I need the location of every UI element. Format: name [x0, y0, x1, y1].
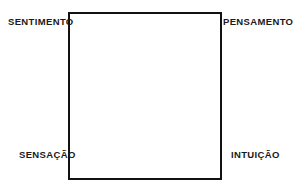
- corner-label-pensamento: PENSAMENTO: [223, 16, 293, 27]
- diagram-canvas: SENTIMENTO PENSAMENTO SENSAÇÃO INTUIÇÃO: [0, 0, 295, 190]
- corner-label-sensacao: SENSAÇÃO: [19, 149, 76, 160]
- corner-label-intuicao: INTUIÇÃO: [231, 149, 280, 160]
- function-square: [68, 12, 222, 180]
- corner-label-sentimento: SENTIMENTO: [8, 16, 68, 27]
